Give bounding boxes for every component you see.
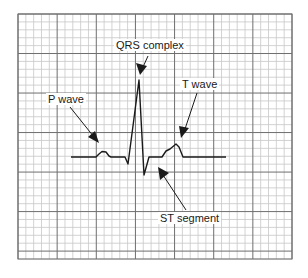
qrs-complex-label: QRS complex [114,39,186,51]
t-wave-label: T wave [180,78,219,90]
st-segment-label: ST segment [158,212,221,224]
qrs-complex-arrow [136,56,148,75]
t-wave-arrow [179,93,197,138]
ecg-trace [71,80,226,175]
p-wave-label: P wave [46,93,86,105]
